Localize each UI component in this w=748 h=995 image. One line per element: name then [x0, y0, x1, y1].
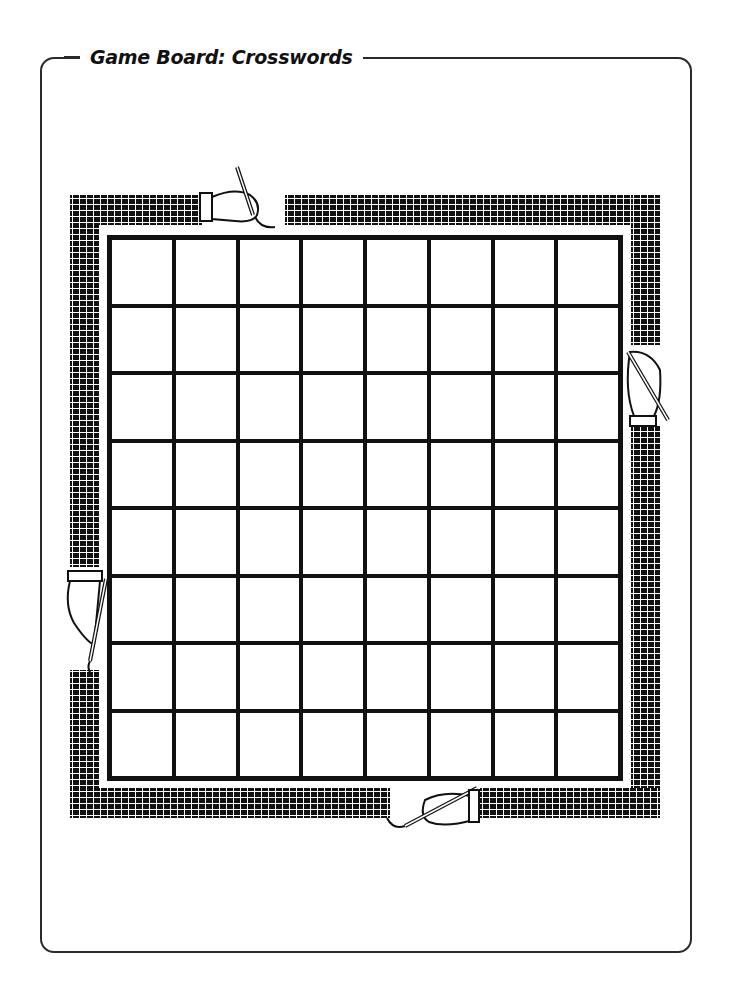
grid-cell[interactable]: [112, 510, 172, 574]
grid-cell[interactable]: [431, 375, 491, 439]
hand-pencil-bottom-icon: [385, 778, 485, 838]
grid-cell[interactable]: [367, 510, 427, 574]
grid-cell[interactable]: [431, 443, 491, 507]
grid-cell[interactable]: [240, 645, 300, 709]
grid-cell[interactable]: [303, 443, 363, 507]
grid-cell[interactable]: [176, 578, 236, 642]
grid-cell[interactable]: [431, 578, 491, 642]
border-left-upper: [70, 195, 99, 567]
grid-cell[interactable]: [367, 375, 427, 439]
grid-cell[interactable]: [303, 510, 363, 574]
grid-cell[interactable]: [558, 510, 618, 574]
grid-cell[interactable]: [176, 240, 236, 304]
grid-cell[interactable]: [303, 308, 363, 372]
grid-cell[interactable]: [112, 375, 172, 439]
grid-cell[interactable]: [112, 443, 172, 507]
grid-cell[interactable]: [303, 578, 363, 642]
grid-cell[interactable]: [431, 645, 491, 709]
grid-cell[interactable]: [495, 713, 555, 777]
grid-cell[interactable]: [495, 308, 555, 372]
grid-cell[interactable]: [495, 240, 555, 304]
grid-cell[interactable]: [176, 645, 236, 709]
grid-cell[interactable]: [495, 375, 555, 439]
page-title: Game Board: Crosswords: [80, 44, 363, 70]
grid-cell[interactable]: [431, 713, 491, 777]
grid-cell[interactable]: [495, 443, 555, 507]
grid-cell[interactable]: [558, 578, 618, 642]
grid-cell[interactable]: [240, 443, 300, 507]
grid-cell[interactable]: [558, 308, 618, 372]
crossword-grid: [107, 235, 623, 781]
grid-cell[interactable]: [367, 645, 427, 709]
grid-cell[interactable]: [558, 443, 618, 507]
grid-cell[interactable]: [495, 510, 555, 574]
grid-cell[interactable]: [431, 510, 491, 574]
grid-cell[interactable]: [240, 578, 300, 642]
grid-cell[interactable]: [240, 375, 300, 439]
grid-cell[interactable]: [240, 240, 300, 304]
grid-cell[interactable]: [112, 578, 172, 642]
grid-cell[interactable]: [303, 375, 363, 439]
grid-cell[interactable]: [558, 240, 618, 304]
grid-cell[interactable]: [240, 510, 300, 574]
grid-cell[interactable]: [495, 645, 555, 709]
grid-cell[interactable]: [303, 240, 363, 304]
hand-pencil-left-icon: [62, 565, 112, 675]
border-bottom-right: [480, 788, 660, 818]
grid-cell[interactable]: [303, 713, 363, 777]
border-top-right: [285, 195, 660, 225]
grid-cell[interactable]: [558, 713, 618, 777]
grid-cell[interactable]: [240, 713, 300, 777]
grid-cell[interactable]: [112, 308, 172, 372]
grid-cell[interactable]: [367, 240, 427, 304]
grid-cell[interactable]: [112, 645, 172, 709]
grid-cell[interactable]: [176, 443, 236, 507]
grid-cell[interactable]: [367, 578, 427, 642]
border-right-upper: [631, 195, 660, 345]
grid-cell[interactable]: [558, 375, 618, 439]
grid-cell[interactable]: [431, 240, 491, 304]
grid-cell[interactable]: [431, 308, 491, 372]
grid-cell[interactable]: [367, 443, 427, 507]
grid-cell[interactable]: [240, 308, 300, 372]
grid-cell[interactable]: [112, 713, 172, 777]
grid-cell[interactable]: [176, 308, 236, 372]
hand-pencil-right-icon: [620, 340, 680, 430]
border-bottom-left: [70, 788, 390, 818]
grid-cell[interactable]: [176, 713, 236, 777]
grid-cell[interactable]: [303, 645, 363, 709]
grid-cell[interactable]: [495, 578, 555, 642]
grid-cell[interactable]: [176, 510, 236, 574]
grid-cell[interactable]: [176, 375, 236, 439]
grid-cell[interactable]: [367, 713, 427, 777]
border-right-lower: [631, 425, 660, 818]
hand-pencil-top-icon: [195, 163, 275, 233]
grid-cell[interactable]: [112, 240, 172, 304]
grid-cell[interactable]: [367, 308, 427, 372]
grid-cell[interactable]: [558, 645, 618, 709]
